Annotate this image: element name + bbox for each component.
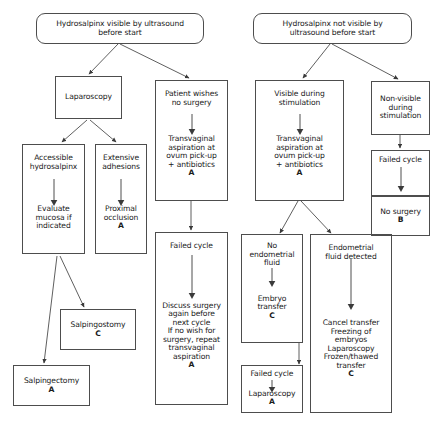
node-transvaginal-mid-grade: A bbox=[189, 169, 195, 178]
node-accessible-text: Accessible hydrosalpinx bbox=[30, 154, 78, 171]
down-arrow-icon bbox=[117, 179, 126, 207]
node-visible-during-stimulation: Visible during stimulation Transvaginal … bbox=[255, 80, 344, 201]
node-transvaginal-mid-text: Transvaginal aspiration at ovum pick-up … bbox=[166, 135, 216, 169]
node-non-visible-during-stimulation: Non-visible during stimulation bbox=[371, 81, 430, 135]
node-root-left: Hydrosalpinx visible by ultrasound befor… bbox=[36, 13, 204, 44]
node-failed-cycle-mid: Failed cycle Discuss surgery again befor… bbox=[155, 232, 228, 405]
down-arrow-icon bbox=[347, 259, 356, 311]
down-arrow-icon bbox=[268, 268, 277, 288]
node-salpingectomy: Salpingectomy A bbox=[13, 365, 90, 406]
node-embryo-transfer-grade: C bbox=[269, 312, 274, 321]
node-discuss-surgery-grade: A bbox=[189, 361, 195, 370]
node-endometrial-fluid-detected: Endometrial fluid detected Cancel transf… bbox=[310, 234, 392, 413]
down-arrow-icon bbox=[396, 167, 405, 193]
node-failed-cycle-lap-text: Failed cycle bbox=[251, 370, 294, 379]
node-patient-wishes-no-surgery: Patient wishes no surgery Transvaginal a… bbox=[155, 80, 228, 201]
node-transvaginal-right-text: Transvaginal aspiration at ovum pick-up … bbox=[274, 135, 324, 169]
flowchart-diagram: Hydrosalpinx visible by ultrasound befor… bbox=[0, 0, 447, 427]
node-transvaginal-right-grade: A bbox=[297, 169, 303, 178]
node-no-surgery-grade: B bbox=[398, 216, 404, 225]
node-failed-cycle-mid-text: Failed cycle bbox=[170, 242, 213, 251]
node-patient-wishes-text: Patient wishes no surgery bbox=[165, 90, 218, 107]
node-proximal-occlusion-text: Proximal occlusion bbox=[104, 205, 139, 222]
node-discuss-surgery-text: Discuss surgery again before next cycle … bbox=[162, 302, 221, 362]
node-no-endometrial-fluid: No endometrial fluid Embryo transfer C bbox=[241, 234, 303, 343]
node-laparoscopy-2-grade: A bbox=[269, 398, 275, 407]
node-proximal-grade: A bbox=[118, 222, 124, 231]
down-arrow-icon bbox=[268, 380, 277, 393]
down-arrow-icon bbox=[295, 114, 304, 136]
node-salpingostomy-grade: C bbox=[95, 330, 100, 339]
node-root-right-text: Hydrosalpinx not visible by ultrasound b… bbox=[282, 20, 382, 37]
node-no-endometrial-fluid-text: No endometrial fluid bbox=[250, 242, 295, 268]
down-arrow-icon bbox=[187, 114, 196, 136]
node-no-surgery: No surgery B bbox=[371, 196, 430, 236]
node-non-visible-text: Non-visible during stimulation bbox=[380, 95, 421, 121]
node-failed-cycle-laparoscopy: Failed cycle Laparoscopy A bbox=[241, 365, 303, 413]
node-root-left-text: Hydrosalpinx visible by ultrasound befor… bbox=[56, 20, 184, 37]
node-laparoscopy-text: Laparoscopy bbox=[65, 93, 112, 102]
node-cancel-transfer-grade: C bbox=[348, 370, 353, 379]
node-laparoscopy: Laparoscopy bbox=[55, 76, 122, 119]
node-salpingectomy-grade: A bbox=[49, 386, 55, 395]
down-arrow-icon bbox=[187, 255, 196, 300]
node-failed-cycle-right: Failed cycle bbox=[371, 150, 430, 196]
node-cancel-transfer-text: Cancel transfer Freezing of embryos Lapa… bbox=[323, 319, 380, 370]
down-arrow-icon bbox=[49, 179, 58, 207]
node-accessible-hydrosalpinx: Accessible hydrosalpinx Evaluate mucosa … bbox=[22, 144, 85, 254]
node-evaluate-mucosa-text: Evaluate mucosa if indicated bbox=[36, 205, 72, 231]
node-extensive-adhesions: Extensive adhesions Proximal occlusion A bbox=[95, 144, 147, 254]
node-extensive-text: Extensive adhesions bbox=[102, 154, 140, 171]
node-salpingostomy: Salpingostomy C bbox=[60, 309, 136, 350]
node-visible-during-text: Visible during stimulation bbox=[274, 90, 324, 107]
node-failed-cycle-right-text: Failed cycle bbox=[379, 156, 422, 165]
node-root-right: Hydrosalpinx not visible by ultrasound b… bbox=[253, 13, 412, 44]
node-embryo-transfer-text: Embryo transfer bbox=[257, 295, 286, 312]
